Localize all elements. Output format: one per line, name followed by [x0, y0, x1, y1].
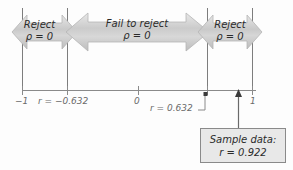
axis-label-critical-low: r = −0.632: [38, 97, 88, 106]
fail-to-reject-label-line1: Fail to reject: [87, 18, 187, 30]
reject-right-label-line1: Reject: [202, 19, 258, 31]
reject-right-label-line2: ρ = 0: [202, 31, 258, 43]
axis-label-critical-high: r = 0.632: [150, 104, 193, 113]
sample-data-callout-text: Sample data: r = 0.922: [201, 133, 285, 159]
reject-left-label: Reject ρ = 0: [12, 19, 67, 42]
reject-right-label: Reject ρ = 0: [202, 19, 258, 42]
fail-to-reject-label-line2: ρ = 0: [87, 30, 187, 42]
axis-label-zero: 0: [134, 97, 140, 106]
fail-to-reject-label: Fail to reject ρ = 0: [87, 18, 187, 41]
axis-label-min: −1: [15, 97, 28, 106]
reject-left-label-line1: Reject: [12, 19, 67, 31]
critical-high-leader-cap: [204, 92, 208, 96]
critical-high-leader-line: [198, 96, 205, 110]
reject-left-label-line2: ρ = 0: [12, 31, 67, 43]
correlation-decision-figure: Reject ρ = 0 Fail to reject ρ = 0 Reject…: [0, 0, 293, 170]
sample-data-callout-line2: r = 0.922: [201, 146, 285, 159]
sample-data-callout-line1: Sample data:: [201, 133, 285, 146]
axis-label-max: 1: [250, 97, 256, 106]
